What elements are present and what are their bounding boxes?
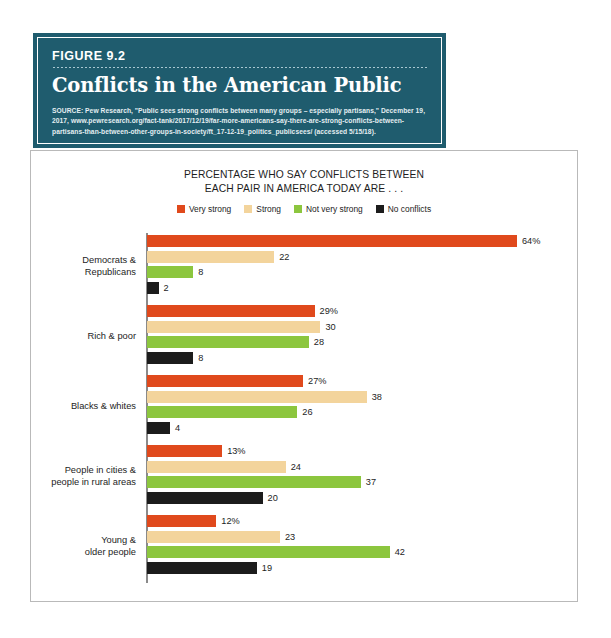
bar-value-label: 8 bbox=[198, 266, 203, 278]
bar-stack: 27%38264 bbox=[147, 375, 382, 437]
bar-group: Rich & poor29%30288 bbox=[31, 303, 577, 369]
bar bbox=[147, 492, 263, 504]
bar bbox=[147, 546, 390, 558]
bar-value-label: 23 bbox=[285, 531, 295, 543]
bar-value-label: 27% bbox=[308, 375, 326, 387]
bar-value-label: 30 bbox=[325, 321, 335, 333]
category-label-line: older people bbox=[0, 546, 136, 558]
chart-title-line-2: EACH PAIR IN AMERICA TODAY ARE . . . bbox=[31, 182, 577, 196]
bar bbox=[147, 251, 274, 263]
legend-label: No conflicts bbox=[388, 204, 431, 214]
bar-value-label: 4 bbox=[175, 422, 180, 434]
bar bbox=[147, 266, 193, 278]
category-label: Democrats &Republicans bbox=[0, 254, 136, 278]
bar-group: Democrats &Republicans64%2282 bbox=[31, 233, 577, 299]
bar-row: 42 bbox=[147, 546, 405, 558]
bar-row: 37 bbox=[147, 476, 376, 488]
bar-group: People in cities &people in rural areas1… bbox=[31, 443, 577, 509]
bar-value-label: 13% bbox=[227, 445, 245, 457]
bar-value-label: 2 bbox=[164, 282, 169, 294]
bar-row: 20 bbox=[147, 492, 376, 504]
bar-value-label: 20 bbox=[268, 492, 278, 504]
bar bbox=[147, 235, 517, 247]
category-label: People in cities &people in rural areas bbox=[0, 464, 136, 488]
bar bbox=[147, 375, 303, 387]
bar-value-label: 42 bbox=[395, 546, 405, 558]
bar-value-label: 8 bbox=[198, 352, 203, 364]
bar-value-label: 29% bbox=[320, 305, 338, 317]
bar-stack: 29%30288 bbox=[147, 305, 338, 367]
bar-value-label: 37 bbox=[366, 476, 376, 488]
category-label-line: people in rural areas bbox=[0, 476, 136, 488]
bar-group: Young &older people12%234219 bbox=[31, 513, 577, 579]
legend-item: Not very strong bbox=[294, 204, 363, 214]
bar-value-label: 26 bbox=[302, 406, 312, 418]
category-label: Rich & poor bbox=[0, 330, 136, 342]
bar-row: 27% bbox=[147, 375, 382, 387]
bar-value-label: 24 bbox=[291, 461, 301, 473]
chart-title: PERCENTAGE WHO SAY CONFLICTS BETWEEN EAC… bbox=[31, 168, 577, 195]
category-label: Young &older people bbox=[0, 534, 136, 558]
category-label: Blacks & whites bbox=[0, 400, 136, 412]
bar-value-label: 12% bbox=[221, 515, 239, 527]
dotted-divider bbox=[52, 66, 427, 69]
bar bbox=[147, 321, 320, 333]
legend-swatch-icon bbox=[294, 205, 302, 213]
bar-row: 19 bbox=[147, 562, 405, 574]
bar-row: 8 bbox=[147, 352, 338, 364]
bar bbox=[147, 406, 297, 418]
bar bbox=[147, 282, 159, 294]
category-label-line: Blacks & whites bbox=[0, 400, 136, 412]
legend-item: Strong bbox=[244, 204, 281, 214]
figure-banner: FIGURE 9.2 Conflicts in the American Pub… bbox=[33, 33, 446, 148]
bar-row: 24 bbox=[147, 461, 376, 473]
category-label-line: Republicans bbox=[0, 266, 136, 278]
bar-row: 12% bbox=[147, 515, 405, 527]
bar-value-label: 64% bbox=[522, 235, 540, 247]
bar bbox=[147, 391, 367, 403]
legend-item: Very strong bbox=[177, 204, 231, 214]
bar-row: 23 bbox=[147, 531, 405, 543]
category-label-line: Democrats & bbox=[0, 254, 136, 266]
figure-source-note: SOURCE: Pew Research, "Public sees stron… bbox=[52, 106, 427, 137]
legend-swatch-icon bbox=[376, 205, 384, 213]
chart-title-line-1: PERCENTAGE WHO SAY CONFLICTS BETWEEN bbox=[184, 169, 424, 180]
bar-value-label: 38 bbox=[372, 391, 382, 403]
bar bbox=[147, 422, 170, 434]
legend-swatch-icon bbox=[177, 205, 185, 213]
bar-row: 38 bbox=[147, 391, 382, 403]
bar-row: 13% bbox=[147, 445, 376, 457]
figure-number-label: FIGURE 9.2 bbox=[52, 49, 427, 63]
bar-row: 4 bbox=[147, 422, 382, 434]
bar-value-label: 19 bbox=[262, 562, 272, 574]
bar bbox=[147, 445, 222, 457]
bar-stack: 12%234219 bbox=[147, 515, 405, 577]
bar bbox=[147, 305, 315, 317]
bar-row: 30 bbox=[147, 321, 338, 333]
category-label-line: People in cities & bbox=[0, 464, 136, 476]
category-label-line: Rich & poor bbox=[0, 330, 136, 342]
bar-row: 29% bbox=[147, 305, 338, 317]
bar-row: 28 bbox=[147, 336, 338, 348]
bar bbox=[147, 461, 286, 473]
figure-title: Conflicts in the American Public bbox=[52, 74, 427, 98]
legend-label: Strong bbox=[256, 204, 281, 214]
legend-item: No conflicts bbox=[376, 204, 431, 214]
bar-value-label: 28 bbox=[314, 336, 324, 348]
category-label-line: Young & bbox=[0, 534, 136, 546]
plot-area: Democrats &Republicans64%2282Rich & poor… bbox=[31, 229, 577, 601]
bar bbox=[147, 515, 216, 527]
bar-row: 22 bbox=[147, 251, 540, 263]
bar-row: 2 bbox=[147, 282, 540, 294]
bar-value-label: 22 bbox=[279, 251, 289, 263]
bar bbox=[147, 352, 193, 364]
bar-stack: 13%243720 bbox=[147, 445, 376, 507]
figure-banner-inner: FIGURE 9.2 Conflicts in the American Pub… bbox=[37, 37, 442, 144]
bar-row: 8 bbox=[147, 266, 540, 278]
bar bbox=[147, 562, 257, 574]
bar bbox=[147, 476, 361, 488]
bar bbox=[147, 531, 280, 543]
chart-legend: Very strongStrongNot very strongNo confl… bbox=[31, 204, 577, 214]
legend-swatch-icon bbox=[244, 205, 252, 213]
legend-label: Very strong bbox=[189, 204, 231, 214]
